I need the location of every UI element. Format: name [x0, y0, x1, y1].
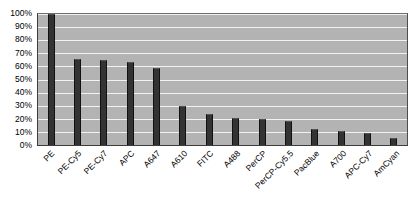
bar[interactable]: [232, 118, 239, 146]
y-axis-tick-label: 70%: [15, 48, 32, 57]
bar-slot: [38, 14, 64, 145]
y-axis-tick-label: 0%: [20, 141, 32, 150]
bar-series: [38, 14, 407, 145]
y-axis-tick-label: 20%: [15, 114, 32, 123]
bar[interactable]: [179, 106, 186, 145]
bar[interactable]: [364, 133, 371, 145]
bar[interactable]: [285, 121, 292, 145]
x-axis-slot: FITC: [196, 147, 223, 203]
bar[interactable]: [206, 114, 213, 145]
x-axis-slot: PE: [37, 147, 64, 203]
plot-area: [37, 13, 408, 146]
x-axis-slot: PE-Cy7: [90, 147, 117, 203]
y-axis-tick-label: 40%: [15, 88, 32, 97]
bar-chart: 100%90%80%70%60%50%40%30%20%10%0% PEPE-C…: [0, 0, 410, 203]
bar[interactable]: [390, 138, 397, 145]
y-axis: 100%90%80%70%60%50%40%30%20%10%0%: [0, 11, 36, 147]
y-axis-tick-label: 100%: [10, 9, 32, 18]
bar[interactable]: [48, 14, 55, 145]
bar[interactable]: [74, 59, 81, 145]
y-axis-tick-label: 30%: [15, 101, 32, 110]
bar-slot: [381, 14, 407, 145]
y-axis-tick-label: 60%: [15, 62, 32, 71]
bar-slot: [117, 14, 143, 145]
bar-slot: [143, 14, 169, 145]
bar[interactable]: [100, 60, 107, 145]
x-axis-slot: A647: [143, 147, 170, 203]
gridline: [38, 145, 407, 146]
bar-slot: [64, 14, 90, 145]
bar-slot: [196, 14, 222, 145]
y-axis-tick-label: 90%: [15, 22, 32, 31]
bar-slot: [223, 14, 249, 145]
bar-slot: [275, 14, 301, 145]
y-axis-tick-label: 80%: [15, 35, 32, 44]
x-axis-tick-label: A647: [142, 149, 162, 169]
x-axis-slot: A488: [223, 147, 250, 203]
x-axis-slot: PE-Cy5: [64, 147, 91, 203]
bar[interactable]: [311, 129, 318, 145]
bar-slot: [249, 14, 275, 145]
bar-slot: [354, 14, 380, 145]
x-axis-slot: APC: [117, 147, 144, 203]
bar-slot: [91, 14, 117, 145]
bar-slot: [170, 14, 196, 145]
x-axis-tick-label: PerCP: [245, 149, 269, 173]
x-axis-tick-label: A700: [328, 149, 348, 169]
x-axis-tick-label: PE: [42, 149, 56, 163]
x-axis-tick-label: A488: [222, 149, 242, 169]
y-axis-tick-label: 10%: [15, 128, 32, 137]
x-axis-slot: AmCyan: [382, 147, 409, 203]
x-axis-slot: A610: [170, 147, 197, 203]
bar-slot: [302, 14, 328, 145]
bar[interactable]: [259, 119, 266, 145]
x-axis-tick-label: FITC: [196, 149, 216, 169]
bar[interactable]: [338, 131, 345, 145]
x-axis-slot: PacBlue: [302, 147, 329, 203]
x-axis-tick-label: APC: [117, 149, 136, 168]
x-axis-tick-label: A610: [169, 149, 189, 169]
bar[interactable]: [153, 68, 160, 145]
bar[interactable]: [127, 62, 134, 145]
x-axis: PEPE-Cy5PE-Cy7APCA647A610FITCA488PerCPPe…: [37, 147, 408, 203]
y-axis-tick-label: 50%: [15, 75, 32, 84]
bar-slot: [328, 14, 354, 145]
